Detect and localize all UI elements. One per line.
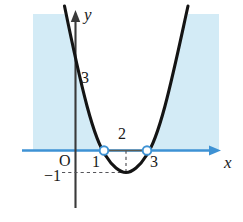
shaded-region-left (33, 14, 100, 150)
math-figure-parabola: y x O 3 1 3 2 −1 (0, 0, 243, 222)
vertex-y-label: −1 (44, 168, 61, 184)
y-axis-label: y (84, 6, 92, 23)
plot-canvas (0, 0, 243, 222)
vertex-x-label: 2 (118, 126, 126, 142)
x-axis-label: x (224, 154, 232, 171)
shaded-region-right (152, 14, 219, 150)
up-arrow-icon (71, 10, 80, 22)
root-right-label: 3 (150, 154, 158, 170)
y-intercept-label: 3 (81, 70, 89, 86)
open-circle-icon-root-left (100, 146, 109, 155)
shaded-region-group (33, 14, 219, 150)
root-left-label: 1 (92, 154, 100, 170)
